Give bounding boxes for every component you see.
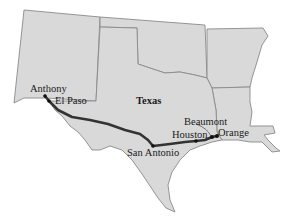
el-paso-marker <box>47 99 51 103</box>
orange-label: Orange <box>218 128 249 139</box>
texas-label: Texas <box>136 96 161 107</box>
beaumont-label: Beaumont <box>184 117 227 128</box>
anthony-label: Anthony <box>30 84 67 95</box>
beaumont-marker <box>210 135 214 139</box>
el-paso-label: El Paso <box>55 96 87 107</box>
houston-label: Houston <box>172 130 208 141</box>
arkansas-region <box>207 28 268 88</box>
anthony-marker <box>43 94 47 98</box>
map-graphic <box>0 0 295 219</box>
san-antonio-label: San Antonio <box>127 148 179 159</box>
map: Anthony El Paso Texas Beaumont Houston O… <box>0 0 295 219</box>
